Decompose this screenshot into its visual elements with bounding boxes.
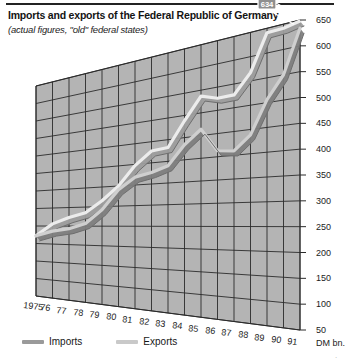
- x-tick-label: 89: [254, 332, 265, 343]
- x-tick-label: 85: [188, 323, 199, 334]
- legend-item-exports: Exports: [116, 336, 177, 347]
- x-tick-label: 87: [221, 327, 232, 338]
- x-tick-label: 91: [287, 336, 298, 347]
- chart-legend: Imports Exports: [22, 336, 177, 347]
- legend-label-exports: Exports: [143, 336, 177, 347]
- x-tick-label: 90: [270, 334, 281, 345]
- legend-item-imports: Imports: [22, 336, 82, 347]
- x-tick-label: 81: [122, 314, 133, 325]
- legend-swatch-imports: [22, 340, 44, 344]
- x-tick-label: 84: [171, 320, 182, 331]
- x-tick-label: 80: [105, 311, 116, 322]
- legend-label-imports: Imports: [49, 336, 82, 347]
- x-tick-label: 88: [237, 329, 248, 340]
- x-tick-label: 76: [39, 302, 50, 313]
- x-tick-label: 77: [56, 305, 67, 316]
- x-tick-label: 78: [72, 307, 83, 318]
- x-tick-label: 82: [138, 316, 149, 327]
- x-tick-label: 86: [204, 325, 215, 336]
- x-tick-label: 83: [155, 318, 166, 329]
- corner-mark: ‧: [335, 354, 337, 362]
- x-tick-label: 79: [89, 309, 100, 320]
- legend-swatch-exports: [116, 340, 138, 344]
